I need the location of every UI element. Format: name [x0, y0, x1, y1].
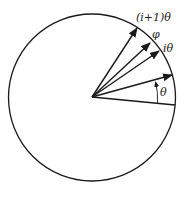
- i-theta-vector: [92, 51, 159, 97]
- label-i-theta: iθ: [163, 42, 174, 55]
- theta-angle-arc: [156, 82, 158, 103]
- label-i-plus-1-theta: (i+1)θ: [136, 11, 171, 24]
- label-theta: θ: [160, 86, 167, 99]
- label-phi: φ: [152, 28, 160, 41]
- circle-diagram: (i+1)θ φ iθ θ: [0, 0, 187, 198]
